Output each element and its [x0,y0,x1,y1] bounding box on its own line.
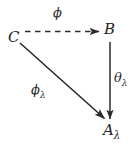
edge-label-phi-lambda: ϕλ [31,83,45,99]
node-label-b: B [104,22,115,37]
edge-label-phi: ϕ [53,6,62,22]
edge-theta-lambda-base: θ [114,70,122,85]
edge-phi-base: ϕ [53,5,62,20]
node-a-subscript: λ [114,130,120,141]
node-a-base: A [103,121,114,139]
node-label-c: C [8,30,19,45]
edge-label-theta-lambda: θλ [114,71,127,87]
node-label-a-lambda: Aλ [103,123,120,141]
edge-theta-lambda-subscript: λ [122,78,128,88]
edge-phi-lambda-base: ϕ [31,82,40,97]
edge-phi-lambda-arrow [20,43,105,119]
commutative-diagram: C B Aλ ϕ ϕλ θλ [0,0,134,147]
edge-phi-lambda-subscript: λ [40,90,46,100]
